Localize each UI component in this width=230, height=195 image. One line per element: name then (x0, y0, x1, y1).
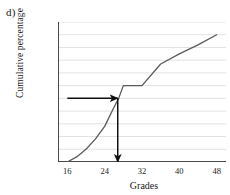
x-tick-label: 40 (175, 166, 184, 176)
x-axis-label: Grades (58, 180, 230, 191)
y-axis-label: Cumulative percentage (15, 0, 25, 112)
x-tick-label: 24 (100, 166, 109, 176)
cumulative-frequency-chart (58, 22, 226, 162)
x-tick-label: 48 (212, 166, 221, 176)
plot-area: 0102030405060708090100110 1624324048 (58, 22, 226, 162)
x-tick-label: 16 (63, 166, 72, 176)
figure-panel-d: d) Cumulative percentage Grades 01020304… (0, 0, 230, 195)
median-annotation-arrows (67, 98, 117, 162)
x-tick-label: 32 (138, 166, 147, 176)
